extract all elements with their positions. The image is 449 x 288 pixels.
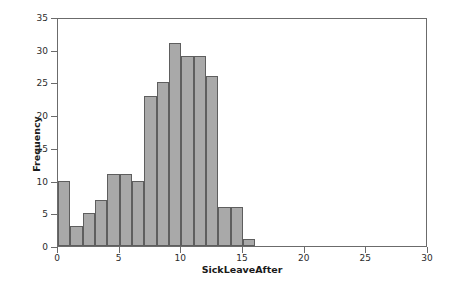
histogram-bar — [132, 181, 144, 246]
histogram-bar — [58, 181, 70, 246]
y-axis-tick-label: 25 — [8, 78, 48, 88]
bars-layer — [58, 19, 426, 246]
y-axis-tick-label: 15 — [8, 144, 48, 154]
x-axis-tick-label: 20 — [284, 253, 324, 263]
histogram-bar — [194, 56, 206, 246]
x-axis-tick-label: 0 — [37, 253, 77, 263]
histogram-bar — [83, 213, 95, 246]
histogram-bar — [70, 226, 82, 246]
histogram-bar — [206, 76, 218, 246]
x-axis-tick-label: 5 — [99, 253, 139, 263]
y-axis-tick-label: 0 — [8, 242, 48, 252]
histogram-bar — [169, 43, 181, 246]
x-axis-tick-label: 25 — [345, 253, 385, 263]
histogram-bar — [120, 174, 132, 246]
x-axis-tick-label: 15 — [222, 253, 262, 263]
histogram-bar — [243, 239, 255, 246]
y-axis-tick-label: 35 — [8, 13, 48, 23]
y-axis-tick-label: 5 — [8, 209, 48, 219]
x-axis-tick-label: 30 — [407, 253, 447, 263]
y-axis-tick-label: 10 — [8, 177, 48, 187]
histogram-bar — [181, 56, 193, 246]
histogram-bar — [144, 96, 156, 246]
histogram-bar — [107, 174, 119, 246]
x-axis-title: SickLeaveAfter — [57, 264, 427, 275]
plot-area — [57, 18, 427, 247]
y-axis-tick-label: 20 — [8, 111, 48, 121]
histogram-chart: Frequency 05101520253035 051015202530 Si… — [0, 0, 449, 288]
histogram-bar — [218, 207, 230, 246]
histogram-bar — [95, 200, 107, 246]
y-axis-tick-label: 30 — [8, 46, 48, 56]
histogram-bar — [157, 82, 169, 246]
histogram-bar — [231, 207, 243, 246]
x-axis-tick-label: 10 — [160, 253, 200, 263]
